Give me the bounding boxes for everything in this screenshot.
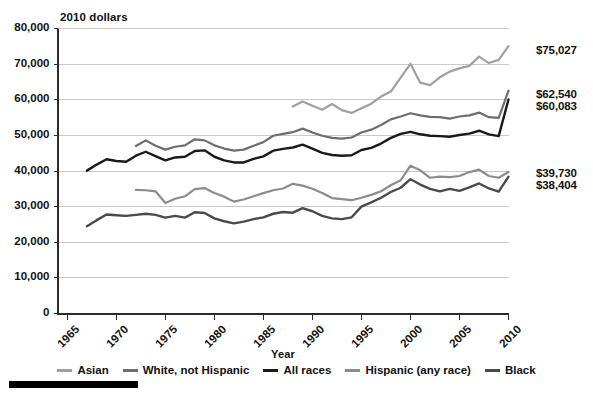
- series-line-asian: [293, 46, 509, 113]
- end-value-label: $39,730: [536, 167, 577, 179]
- y-tick-label: 20,000: [0, 235, 50, 247]
- bottom-rule-decoration: [9, 381, 138, 388]
- end-value-label: $62,540: [536, 88, 577, 100]
- y-tick-label: 0: [0, 306, 50, 318]
- y-tick-label: 10,000: [0, 270, 50, 282]
- legend-item-black[interactable]: Black: [485, 364, 536, 376]
- end-value-label: $75,027: [536, 44, 577, 56]
- end-value-label: $38,404: [536, 179, 577, 191]
- y-tick-label: 80,000: [0, 21, 50, 33]
- legend-label: Black: [505, 364, 536, 376]
- chart-container: 2010 dollars Year AsianWhite, not Hispan…: [0, 0, 593, 394]
- legend-swatch-icon: [345, 369, 360, 372]
- y-tick-label: 70,000: [0, 57, 50, 69]
- legend-item-all-races[interactable]: All races: [263, 364, 331, 376]
- legend-swatch-icon: [485, 369, 500, 372]
- legend-swatch-icon: [263, 369, 278, 372]
- legend-swatch-icon: [57, 369, 72, 372]
- y-tick-label: 40,000: [0, 164, 50, 176]
- y-tick-label: 60,000: [0, 92, 50, 104]
- end-value-label: $60,083: [536, 100, 577, 112]
- y-tick-label: 30,000: [0, 199, 50, 211]
- y-tick-label: 50,000: [0, 128, 50, 140]
- legend-item-hispanic-any-race[interactable]: Hispanic (any race): [345, 364, 470, 376]
